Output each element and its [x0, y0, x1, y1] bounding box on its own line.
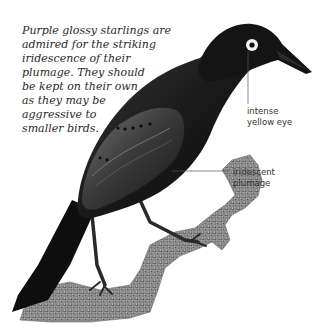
- caption-line: iridescence of their: [22, 52, 162, 66]
- caption-line: as they may be: [22, 94, 162, 108]
- caption-line: smaller birds.: [22, 122, 162, 136]
- caption-text: Purple glossy starlings are admired for …: [22, 24, 162, 136]
- caption-line: aggressive to: [22, 108, 162, 122]
- caption-line: admired for the striking: [22, 38, 162, 52]
- eye-icon: [246, 39, 258, 51]
- caption-line: be kept on their own: [22, 80, 162, 94]
- annotation-plumage: iridescent plumage: [233, 167, 275, 188]
- page: Purple glossy starlings are admired for …: [0, 0, 320, 331]
- annotation-line: yellow eye: [247, 117, 292, 128]
- annotation-line: plumage: [233, 178, 275, 189]
- caption-line: plumage. They should: [22, 66, 162, 80]
- head: [198, 24, 312, 82]
- annotation-eye: intense yellow eye: [247, 106, 292, 127]
- annotation-line: iridescent: [233, 167, 275, 178]
- caption-line: Purple glossy starlings are: [22, 24, 162, 38]
- annotation-line: intense: [247, 106, 292, 117]
